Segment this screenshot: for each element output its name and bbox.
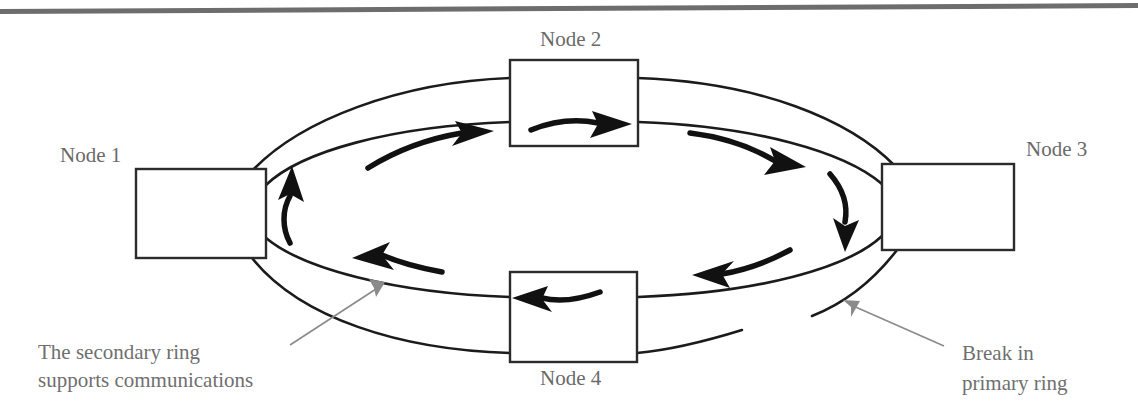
node-2-label: Node 2 (540, 27, 601, 51)
node-1-label: Node 1 (60, 143, 121, 167)
secondary-ring-caption-line2: supports communications (38, 368, 253, 392)
node-1[interactable]: Node 1 (60, 143, 266, 258)
node-4-label: Node 4 (540, 366, 602, 390)
ring-network-diagram: Node 1 Node 2 Node 3 Node 4 (0, 0, 1138, 418)
primary-ring-arc-bottom-left (252, 258, 511, 353)
secondary-ring-caption-line1: The secondary ring (38, 340, 201, 364)
break-leader-line (851, 305, 944, 346)
break-caption-line1: Break in (962, 341, 1034, 365)
node-3-label: Node 3 (1026, 137, 1087, 161)
node-3-box[interactable] (882, 164, 1014, 250)
node-1-box[interactable] (136, 169, 266, 258)
secondary-ring (260, 122, 888, 297)
flow-arrow-left-up (278, 166, 304, 243)
node-4-box[interactable] (510, 272, 637, 362)
node-2[interactable]: Node 2 (510, 27, 638, 146)
flow-arrow-bottom-left (352, 242, 442, 272)
break-annotation: Break in primary ring (843, 300, 1068, 395)
secondary-ring-annotation: The secondary ring supports communicatio… (38, 279, 385, 392)
top-rule (0, 3, 1138, 14)
break-caption-line2: primary ring (962, 371, 1068, 395)
node-2-box[interactable] (510, 60, 638, 146)
figure-container: Node 1 Node 2 Node 3 Node 4 (0, 0, 1138, 418)
node-4[interactable]: Node 4 (510, 272, 637, 390)
flow-arrow-top-right (690, 133, 806, 175)
flow-arrow-right-down (830, 174, 859, 252)
node-3[interactable]: Node 3 (882, 137, 1087, 250)
primary-ring-arc-bottom-right (637, 330, 742, 353)
secondary-ring-leader-arrowhead (369, 279, 385, 297)
secondary-ring-leader-line (290, 289, 376, 345)
